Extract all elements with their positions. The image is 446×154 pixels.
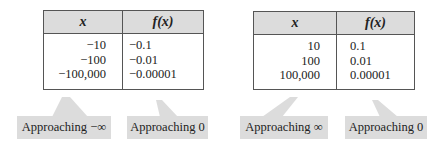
table-cell: 0.00001 [350, 68, 414, 83]
left-table: x f(x) −10 −100 −100,000 −0.1 −0.01 −0.0… [43, 10, 204, 90]
table-cell: 0.1 [350, 39, 414, 54]
table-cell: 100,000 [254, 68, 320, 83]
table-cell: 100 [254, 54, 320, 69]
callout-approaching-zero-left: Approaching 0 [127, 116, 208, 139]
header-x: x [254, 12, 336, 34]
table-cell: −0.1 [129, 38, 203, 53]
callout-approaching-neg-infinity: Approaching −∞ [17, 116, 111, 139]
header-fx: f(x) [123, 11, 203, 33]
header-x: x [44, 11, 122, 33]
header-fx: f(x) [337, 12, 414, 34]
x-column: −10 −100 −100,000 [44, 38, 106, 82]
table-cell: −10 [44, 38, 106, 53]
table-cell: −100 [44, 53, 106, 68]
right-table: x f(x) 10 100 100,000 0.1 0.01 0.00001 [253, 11, 415, 90]
fx-column: −0.1 −0.01 −0.00001 [129, 38, 203, 82]
table-cell: −0.01 [129, 53, 203, 68]
fx-column: 0.1 0.01 0.00001 [350, 39, 414, 83]
callout-approaching-zero-right: Approaching 0 [345, 116, 427, 139]
callout-approaching-infinity: Approaching ∞ [240, 116, 328, 139]
table-cell: −0.00001 [129, 67, 203, 82]
x-column: 10 100 100,000 [254, 39, 320, 83]
table-cell: 0.01 [350, 54, 414, 69]
table-cell: 10 [254, 39, 320, 54]
table-cell: −100,000 [44, 67, 106, 82]
